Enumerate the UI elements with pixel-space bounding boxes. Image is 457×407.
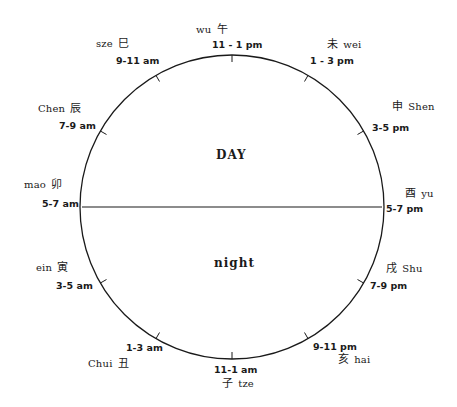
hour-time-sze: 9-11 am <box>116 55 159 66</box>
hour-time-yu: 5-7 pm <box>386 203 423 214</box>
hour-time-wei: 1 - 3 pm <box>310 55 354 66</box>
hour-label-wu: wu 午 <box>196 24 230 35</box>
hour-name: sze <box>96 38 113 49</box>
hanzi-glyph: 亥 <box>338 353 349 366</box>
hour-name: Shen <box>408 101 434 112</box>
hour-label-tze: 子 tze <box>220 378 254 389</box>
hour-label-ein: ein 寅 <box>36 262 70 273</box>
hour-label-chui: Chui 丑 <box>88 358 131 369</box>
hour-name: Shu <box>402 263 422 274</box>
hour-name: ein <box>36 262 52 273</box>
hour-time-mao: 5-7 am <box>42 198 79 209</box>
hour-name: Chui <box>88 358 113 369</box>
hour-time-wu: 11 - 1 pm <box>212 39 262 50</box>
hour-name: hai <box>354 354 370 365</box>
hour-label-shen: 申 Shen <box>390 101 435 112</box>
hour-time-chen: 7-9 am <box>59 120 96 131</box>
hanzi-glyph: 申 <box>392 100 403 113</box>
hour-label-mao: mao 卯 <box>24 179 64 190</box>
hour-time-shen: 3-5 pm <box>372 122 409 133</box>
hanzi-glyph: 酉 <box>405 187 416 200</box>
hour-name: Chen <box>38 103 65 114</box>
hour-name: wu <box>196 24 211 35</box>
day-label: DAY <box>216 148 247 162</box>
hanzi-glyph: 午 <box>217 23 228 36</box>
hour-label-wei: 未 wei <box>325 39 361 50</box>
hour-name: tze <box>238 378 254 389</box>
hanzi-glyph: 辰 <box>70 102 81 115</box>
hour-time-hai: 9-11 pm <box>313 341 357 352</box>
hour-label-shu: 戌 Shu <box>384 263 423 274</box>
hanzi-glyph: 戌 <box>386 262 397 275</box>
hanzi-glyph: 丑 <box>118 357 129 370</box>
hanzi-glyph: 巳 <box>118 37 129 50</box>
hanzi-glyph: 寅 <box>57 261 68 274</box>
hour-label-sze: sze 巳 <box>96 38 131 49</box>
hanzi-glyph: 卯 <box>51 178 62 191</box>
hanzi-glyph: 子 <box>222 377 233 390</box>
hour-label-yu: 酉 yu <box>403 188 434 199</box>
hour-name: yu <box>421 188 434 199</box>
hour-label-chen: Chen 辰 <box>38 103 83 114</box>
hour-name: wei <box>343 39 361 50</box>
hour-name: mao <box>24 179 46 190</box>
hanzi-glyph: 未 <box>327 38 338 51</box>
hour-label-hai: 亥 hai <box>336 354 370 365</box>
night-label: night <box>214 256 255 270</box>
hour-time-tze: 11-1 am <box>214 364 257 375</box>
hour-time-chui: 1-3 am <box>126 342 163 353</box>
hour-time-ein: 3-5 am <box>56 280 93 291</box>
hour-time-shu: 7-9 pm <box>370 280 407 291</box>
